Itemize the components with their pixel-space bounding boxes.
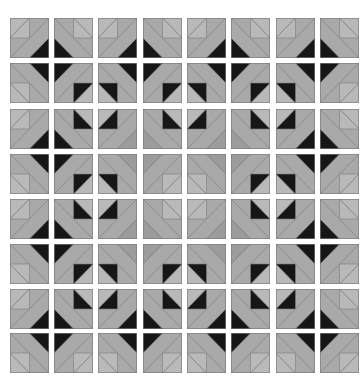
quilt-tile	[320, 289, 359, 329]
quilt-tile	[320, 199, 359, 239]
quilt-tile	[276, 199, 315, 239]
quilt-tile	[276, 333, 315, 373]
quilt-tile	[10, 199, 49, 239]
quilt-tile	[10, 333, 49, 373]
quilt-tile	[10, 18, 49, 58]
quilt-tile	[143, 333, 182, 373]
quilt-grid	[0, 0, 364, 378]
quilt-tile	[187, 109, 226, 149]
quilt-tile	[187, 289, 226, 329]
quilt-tile	[231, 154, 270, 194]
quilt-tile	[187, 63, 226, 103]
quilt-tile	[54, 18, 93, 58]
quilt-tile	[98, 333, 137, 373]
quilt-tile	[276, 18, 315, 58]
quilt-tile	[98, 63, 137, 103]
quilt-tile	[54, 244, 93, 284]
quilt-tile	[143, 109, 182, 149]
quilt-tile	[276, 109, 315, 149]
quilt-tile	[98, 244, 137, 284]
quilt-tile	[231, 199, 270, 239]
quilt-tile	[187, 154, 226, 194]
quilt-tile	[320, 154, 359, 194]
quilt-tile	[143, 18, 182, 58]
quilt-tile	[10, 63, 49, 103]
quilt-tile	[54, 199, 93, 239]
quilt-tile	[231, 63, 270, 103]
quilt-tile	[54, 154, 93, 194]
quilt-tile	[320, 109, 359, 149]
quilt-tile	[143, 63, 182, 103]
quilt-tile	[54, 109, 93, 149]
quilt-tile	[320, 18, 359, 58]
quilt-tile	[10, 289, 49, 329]
quilt-tile	[54, 289, 93, 329]
quilt-tile	[276, 154, 315, 194]
quilt-tile	[98, 199, 137, 239]
quilt-tile	[231, 289, 270, 329]
quilt-tile	[231, 333, 270, 373]
quilt-tile	[231, 18, 270, 58]
quilt-tile	[54, 63, 93, 103]
quilt-tile	[320, 63, 359, 103]
quilt-tile	[143, 244, 182, 284]
quilt-tile	[187, 18, 226, 58]
quilt-tile	[187, 244, 226, 284]
quilt-tile	[231, 244, 270, 284]
quilt-tile	[143, 154, 182, 194]
quilt-tile	[98, 18, 137, 58]
quilt-tile	[98, 289, 137, 329]
quilt-tile	[54, 333, 93, 373]
quilt-tile	[276, 289, 315, 329]
quilt-tile	[320, 244, 359, 284]
quilt-tile	[10, 109, 49, 149]
quilt-tile	[276, 63, 315, 103]
quilt-tile	[10, 244, 49, 284]
quilt-tile	[143, 199, 182, 239]
quilt-tile	[143, 289, 182, 329]
quilt-tile	[187, 199, 226, 239]
quilt-tile	[187, 333, 226, 373]
quilt-tile	[98, 154, 137, 194]
quilt-tile	[276, 244, 315, 284]
quilt-tile	[10, 154, 49, 194]
quilt-tile	[320, 333, 359, 373]
quilt-tile	[98, 109, 137, 149]
quilt-tile	[231, 109, 270, 149]
